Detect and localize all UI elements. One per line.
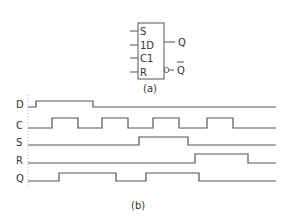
- signal-label-s: S: [16, 137, 22, 148]
- input-label-c1: C1: [140, 53, 153, 64]
- waveform-r: [28, 154, 276, 163]
- signal-label-d: D: [16, 99, 24, 110]
- caption-b: (b): [131, 200, 145, 211]
- output-label-qbar: Q: [177, 65, 185, 76]
- signal-label-q: Q: [16, 173, 24, 184]
- inversion-bubble-icon: [164, 68, 169, 73]
- waveform-d: [28, 101, 276, 107]
- signal-label-c: C: [16, 120, 23, 131]
- input-label-1d: 1D: [140, 40, 154, 51]
- input-label-s: S: [140, 26, 146, 37]
- output-label-q: Q: [178, 37, 186, 48]
- timing-diagram: DCSRQ (b): [16, 95, 276, 211]
- flip-flop-symbol: S1DC1R QQ (a): [130, 23, 186, 94]
- waveform-q: [28, 173, 276, 181]
- waveform-c: [28, 118, 276, 128]
- waveform-s: [28, 137, 276, 145]
- signal-label-r: R: [16, 155, 23, 166]
- input-label-r: R: [140, 67, 147, 78]
- flip-flop-diagram: S1DC1R QQ (a) DCSRQ (b): [0, 0, 286, 222]
- caption-a: (a): [143, 83, 157, 94]
